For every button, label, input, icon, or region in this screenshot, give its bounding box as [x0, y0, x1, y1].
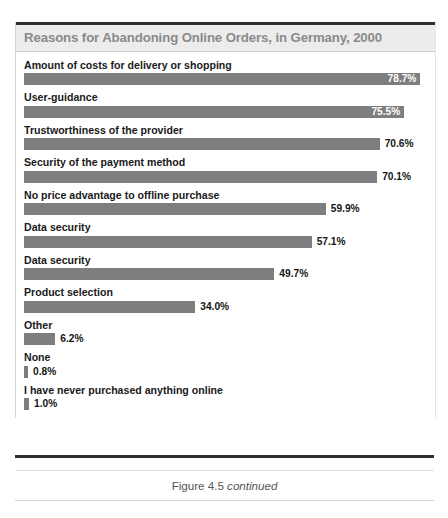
bar-line: 49.7%: [24, 268, 427, 280]
bar-value-label: 57.1%: [317, 236, 346, 248]
bar: [24, 268, 274, 280]
bar-row: Other6.2%: [24, 319, 427, 346]
bar-row: Security of the payment method70.1%: [24, 156, 427, 183]
bar-value-label: 34.0%: [200, 301, 229, 313]
page-running-head: [22, 0, 434, 5]
bar-category-label: I have never purchased anything online: [24, 384, 427, 397]
bar: [24, 203, 326, 215]
bar-chart: Amount of costs for delivery or shopping…: [16, 52, 435, 419]
figure-caption-continued: continued: [227, 479, 277, 492]
bar: 78.7%: [24, 73, 420, 85]
bar-value-label: 70.6%: [385, 138, 414, 150]
bar-line: 70.6%: [24, 138, 427, 150]
bar-value-label: 1.0%: [34, 398, 57, 410]
bar-row: Data security49.7%: [24, 254, 427, 281]
bar-line: 75.5%: [24, 106, 427, 118]
figure-caption-number: Figure 4.5: [172, 479, 224, 492]
bar: [24, 366, 28, 378]
figure-footer: Figure 4.5 continued: [15, 455, 434, 501]
bar-category-label: No price advantage to offline purchase: [24, 189, 427, 202]
bar-value-label: 0.8%: [33, 366, 56, 378]
bar: [24, 171, 377, 183]
bar-row: None0.8%: [24, 351, 427, 378]
figure-title-band: Reasons for Abandoning Online Orders, in…: [16, 25, 435, 52]
figure-page: Reasons for Abandoning Online Orders, in…: [0, 0, 448, 518]
bar-category-label: Data security: [24, 221, 427, 234]
bar-row: No price advantage to offline purchase59…: [24, 189, 427, 216]
bar-row: Trustworthiness of the provider70.6%: [24, 124, 427, 151]
bar-value-label: 6.2%: [60, 333, 83, 345]
bar-value-label: 78.7%: [388, 73, 421, 85]
bar-line: 57.1%: [24, 236, 427, 248]
bar-category-label: None: [24, 351, 427, 364]
bar: [24, 138, 380, 150]
bar-line: 0.8%: [24, 366, 427, 378]
bar-line: 6.2%: [24, 333, 427, 345]
bar: [24, 236, 312, 248]
bar-line: 59.9%: [24, 203, 427, 215]
bar-row: Amount of costs for delivery or shopping…: [24, 59, 427, 86]
figure-caption-box: Figure 4.5 continued: [15, 470, 434, 501]
bar-value-label: 75.5%: [371, 106, 404, 118]
bar-category-label: Other: [24, 319, 427, 332]
bar-category-label: Product selection: [24, 286, 427, 299]
bar-category-label: User-guidance: [24, 91, 427, 104]
bar-value-label: 59.9%: [331, 203, 360, 215]
bar-row: Data security57.1%: [24, 221, 427, 248]
bar: [24, 398, 29, 410]
bar-value-label: 49.7%: [279, 268, 308, 280]
bar-row: Product selection34.0%: [24, 286, 427, 313]
bar-line: 78.7%: [24, 73, 427, 85]
figure-frame: Reasons for Abandoning Online Orders, in…: [15, 22, 436, 418]
bar-category-label: Trustworthiness of the provider: [24, 124, 427, 137]
bar-line: 1.0%: [24, 398, 427, 410]
bar-category-label: Security of the payment method: [24, 156, 427, 169]
bar-line: 70.1%: [24, 171, 427, 183]
bar-value-label: 70.1%: [382, 171, 411, 183]
bar-row: I have never purchased anything online1.…: [24, 384, 427, 411]
bar: 75.5%: [24, 106, 404, 118]
figure-title: Reasons for Abandoning Online Orders, in…: [24, 30, 427, 45]
bar-category-label: Amount of costs for delivery or shopping: [24, 59, 427, 72]
figure-bottom-rule: [15, 455, 434, 458]
bar-row: User-guidance75.5%: [24, 91, 427, 118]
bar-category-label: Data security: [24, 254, 427, 267]
figure-caption: Figure 4.5 continued: [172, 479, 278, 492]
bar-line: 34.0%: [24, 301, 427, 313]
bar: [24, 301, 195, 313]
bar: [24, 333, 55, 345]
